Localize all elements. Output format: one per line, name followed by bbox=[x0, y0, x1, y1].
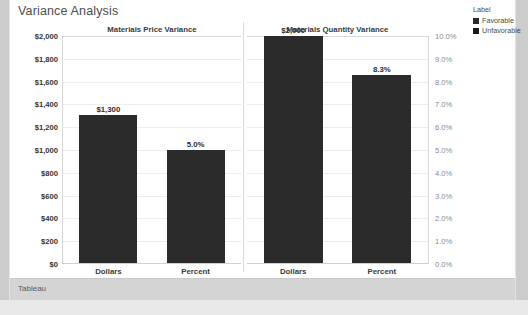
legend-title: Label bbox=[473, 5, 528, 14]
percent-axis-tick: 8.0% bbox=[435, 77, 452, 86]
dollar-axis-tick: $1,600 bbox=[35, 77, 58, 86]
category-axis-label: Dollars bbox=[79, 267, 137, 276]
page-bottom-margin bbox=[0, 300, 528, 315]
dollar-axis: $2,000$1,800$1,600$1,400$1,200$1,000$800… bbox=[10, 22, 62, 278]
dollar-axis-tick: $800 bbox=[41, 168, 58, 177]
panel-materials-quantity-variance: Materials Quantity Variance $2,0008.3% D… bbox=[247, 22, 428, 278]
bar[interactable] bbox=[352, 75, 411, 263]
bar[interactable] bbox=[79, 115, 137, 263]
legend-swatch-icon bbox=[473, 18, 479, 24]
gridline bbox=[63, 82, 241, 83]
percent-axis-tick: 10.0% bbox=[435, 32, 457, 41]
page-title: Variance Analysis bbox=[18, 4, 118, 18]
dollar-axis-tick: $1,000 bbox=[35, 146, 58, 155]
percent-axis-tick: 9.0% bbox=[435, 54, 452, 63]
percent-axis: 10.0%9.0%8.0%7.0%6.0%5.0%4.0%3.0%2.0%1.0… bbox=[429, 22, 473, 278]
percent-axis-tick: 6.0% bbox=[435, 123, 452, 132]
panel-divider bbox=[243, 22, 244, 272]
category-axis: DollarsPercent bbox=[247, 265, 428, 279]
page-left-margin bbox=[0, 0, 10, 300]
percent-axis-tick: 0.0% bbox=[435, 260, 452, 269]
legend-item-label: Unfavorable bbox=[482, 26, 521, 35]
page-right-margin bbox=[515, 0, 528, 300]
legend-items: FavorableUnfavorable bbox=[473, 16, 528, 35]
axis-baseline bbox=[247, 263, 428, 264]
category-axis-label: Percent bbox=[352, 267, 411, 276]
legend-item-label: Favorable bbox=[482, 16, 514, 25]
category-axis-label: Percent bbox=[167, 267, 225, 276]
dollar-axis-tick: $1,400 bbox=[35, 100, 58, 109]
legend-swatch-icon bbox=[473, 28, 479, 34]
panel-title: Materials Price Variance bbox=[63, 25, 241, 34]
legend-item[interactable]: Favorable bbox=[473, 16, 528, 25]
plot-area: $2,0008.3% bbox=[247, 36, 428, 264]
panel-materials-price-variance: Materials Price Variance $1,3005.0% Doll… bbox=[63, 22, 241, 278]
visualization-area: $2,000$1,800$1,600$1,400$1,200$1,000$800… bbox=[10, 22, 515, 278]
percent-axis-tick: 4.0% bbox=[435, 168, 452, 177]
percent-axis-tick: 7.0% bbox=[435, 100, 452, 109]
dashboard-footer: Tableau bbox=[10, 278, 515, 301]
dollar-axis-tick: $1,800 bbox=[35, 54, 58, 63]
category-axis-label: Dollars bbox=[264, 267, 323, 276]
category-axis: DollarsPercent bbox=[63, 265, 241, 279]
bar-value-label: 5.0% bbox=[167, 140, 225, 149]
bar[interactable] bbox=[167, 150, 225, 264]
dollar-axis-tick: $200 bbox=[41, 237, 58, 246]
bar-value-label: $1,300 bbox=[79, 105, 137, 114]
dollar-axis-tick: $0 bbox=[50, 260, 58, 269]
percent-axis-tick: 5.0% bbox=[435, 146, 452, 155]
plot-area: $1,3005.0% bbox=[63, 36, 241, 264]
dollar-axis-tick: $2,000 bbox=[35, 32, 58, 41]
axis-baseline bbox=[63, 263, 241, 264]
bar[interactable] bbox=[264, 36, 323, 263]
dollar-axis-tick: $600 bbox=[41, 191, 58, 200]
bar-value-label: 8.3% bbox=[352, 65, 411, 74]
gridline bbox=[63, 59, 241, 60]
bar-value-label: $2,000 bbox=[264, 26, 323, 35]
dashboard-page: Variance Analysis $2,000$1,800$1,600$1,4… bbox=[0, 0, 528, 315]
legend-item[interactable]: Unfavorable bbox=[473, 26, 528, 35]
tableau-branding: Tableau bbox=[18, 284, 46, 293]
percent-axis-tick: 1.0% bbox=[435, 237, 452, 246]
legend: Label FavorableUnfavorable bbox=[473, 5, 528, 36]
percent-axis-tick: 3.0% bbox=[435, 191, 452, 200]
dollar-axis-tick: $1,200 bbox=[35, 123, 58, 132]
dashboard-card: Variance Analysis $2,000$1,800$1,600$1,4… bbox=[10, 0, 515, 300]
percent-axis-tick: 2.0% bbox=[435, 214, 452, 223]
dollar-axis-tick: $400 bbox=[41, 214, 58, 223]
